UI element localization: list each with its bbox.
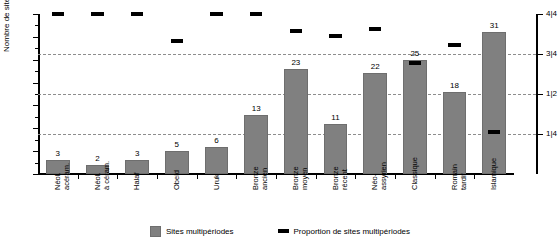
bar-value-label: 11 xyxy=(316,114,356,122)
y-axis-tick xyxy=(33,14,40,15)
bar xyxy=(482,32,506,174)
plot-area: 1|41|23|44|43235613231122251831 xyxy=(38,14,514,174)
x-axis-tick xyxy=(197,174,198,179)
y-axis-minor-tick xyxy=(35,117,40,118)
gridline xyxy=(38,54,536,55)
category-label-line: ancien xyxy=(261,166,270,190)
category-label-line: Néol. xyxy=(94,161,103,190)
bar-value-label: 31 xyxy=(474,22,514,30)
x-axis-category-label: Halaf xyxy=(133,172,142,190)
category-label-line: assyrien xyxy=(380,162,389,190)
bar-value-label: 22 xyxy=(355,63,395,71)
bar-swatch-icon xyxy=(150,226,161,237)
bar-value-label: 5 xyxy=(157,141,197,149)
x-axis-category-label: Romaintardif xyxy=(451,164,468,190)
proportion-marker xyxy=(52,12,64,16)
right-axis-tick xyxy=(536,94,543,95)
category-label-line: Bronze xyxy=(332,166,341,190)
x-axis-category-label: Bronzemoyen xyxy=(292,166,309,190)
proportion-marker xyxy=(369,27,381,31)
category-label-line: acéram. xyxy=(62,163,71,190)
proportion-marker xyxy=(210,12,222,16)
bar xyxy=(205,147,229,174)
y-axis-tick xyxy=(33,105,40,106)
x-axis-category-label: Bronzerécent xyxy=(332,166,349,190)
bar-value-label: 3 xyxy=(38,150,78,158)
y-axis-minor-tick xyxy=(35,25,40,26)
legend-label-proportion: Proportion de sites multipériodes xyxy=(294,227,411,236)
x-axis-tick xyxy=(236,174,237,179)
bar-value-label: 6 xyxy=(197,137,237,145)
bar-value-label: 25 xyxy=(395,50,435,58)
proportion-marker xyxy=(329,34,341,38)
x-axis-tick xyxy=(355,174,356,179)
x-axis-category-label: Bronzeancien xyxy=(252,166,269,190)
x-axis-tick xyxy=(474,174,475,179)
y-axis-minor-tick xyxy=(35,71,40,72)
category-label-line: tardif xyxy=(459,164,468,190)
right-axis-tick-label: 1|2 xyxy=(546,90,557,98)
proportion-marker xyxy=(91,12,103,16)
x-axis-tick xyxy=(435,174,436,179)
x-axis-tick xyxy=(78,174,79,179)
proportion-marker xyxy=(488,130,500,134)
proportion-marker xyxy=(131,12,143,16)
category-label-line: Halaf xyxy=(133,172,142,190)
proportion-marker xyxy=(290,29,302,33)
y-axis-tick xyxy=(33,174,40,175)
bar-value-label: 18 xyxy=(435,82,475,90)
category-label-line: à céram. xyxy=(102,161,111,190)
legend-label-bars: Sites multipériodes xyxy=(166,227,234,236)
proportion-marker xyxy=(171,39,183,43)
chart-container: Nombre de sites 1|41|23|44|4323561323112… xyxy=(0,0,560,243)
bar-value-label: 13 xyxy=(236,105,276,113)
y-axis-tick xyxy=(33,60,40,61)
bar-value-label: 23 xyxy=(276,59,316,67)
category-label-line: Islamique xyxy=(490,158,499,190)
right-axis-tick-label: 1|4 xyxy=(546,130,557,138)
x-axis-tick xyxy=(276,174,277,179)
bar-value-label: 3 xyxy=(117,150,157,158)
x-axis-category-label: Uruk xyxy=(213,174,222,190)
bar xyxy=(284,69,308,174)
category-label-line: Obeid xyxy=(173,170,182,190)
x-axis-category-label: Islamique xyxy=(490,158,499,190)
legend-item-bars: Sites multipériodes xyxy=(150,226,234,237)
category-label-line: Uruk xyxy=(213,174,222,190)
right-axis-tick-label: 3|4 xyxy=(546,50,557,58)
y-axis-minor-tick xyxy=(35,163,40,164)
bar xyxy=(363,73,387,174)
x-axis-category-label: Néo-assyrien xyxy=(371,162,388,190)
x-axis-category-label: Obeid xyxy=(173,170,182,190)
right-axis-tick xyxy=(536,14,543,15)
right-axis-tick xyxy=(536,134,543,135)
x-axis-category-label: Néol.acéram. xyxy=(54,163,71,190)
category-label-line: Classique xyxy=(411,157,420,190)
y-axis-title: Nombre de sites xyxy=(2,0,11,52)
right-axis-tick xyxy=(536,54,543,55)
category-label-line: moyen xyxy=(300,166,309,190)
y-axis-tick xyxy=(33,83,40,84)
bar xyxy=(244,115,268,174)
chart-legend: Sites multipériodes Proportion de sites … xyxy=(0,224,560,238)
bar xyxy=(443,92,467,174)
dash-swatch-icon xyxy=(278,229,289,233)
proportion-marker xyxy=(409,61,421,65)
legend-item-proportion: Proportion de sites multipériodes xyxy=(278,227,411,236)
x-axis-category-label: Néol.à céram. xyxy=(94,161,111,190)
x-axis-tick xyxy=(157,174,158,179)
right-axis-tick-label: 4|4 xyxy=(546,10,557,18)
category-label-line: récent xyxy=(340,166,349,190)
y-axis-tick xyxy=(33,37,40,38)
x-axis-tick xyxy=(395,174,396,179)
x-axis-category-label: Classique xyxy=(411,157,420,190)
y-axis-tick xyxy=(33,128,40,129)
x-axis-tick xyxy=(117,174,118,179)
proportion-marker xyxy=(448,43,460,47)
category-label-line: Romain xyxy=(451,164,460,190)
y-axis-minor-tick xyxy=(35,48,40,49)
proportion-marker xyxy=(250,12,262,16)
x-axis-tick xyxy=(316,174,317,179)
y-axis-minor-tick xyxy=(35,140,40,141)
